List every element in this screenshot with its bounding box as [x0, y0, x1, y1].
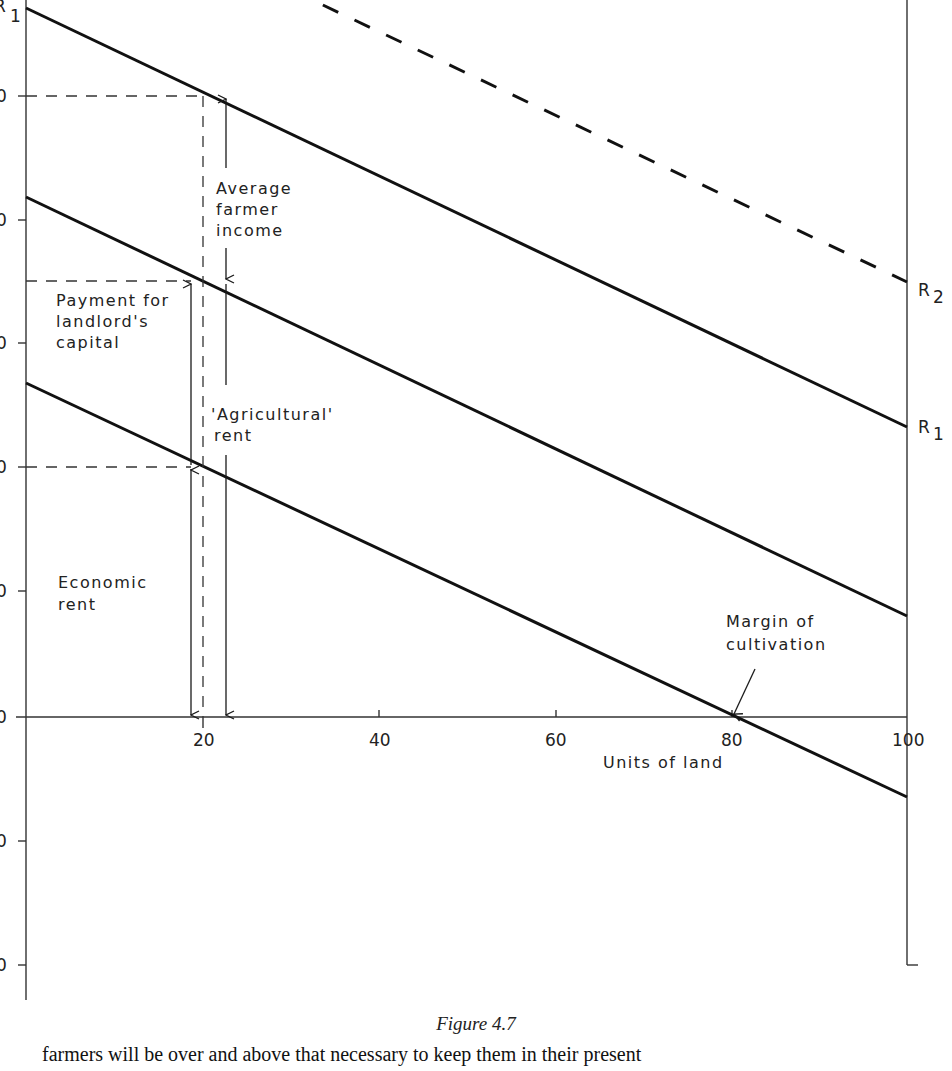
label-average-farmer-income: Average farmer income	[216, 179, 292, 240]
svg-text:Margin of: Margin of	[726, 612, 815, 631]
svg-text:landlord's: landlord's	[56, 312, 149, 331]
svg-text:60: 60	[545, 730, 567, 750]
line-economic-rent	[26, 383, 907, 797]
body-text: farmers will be over and above that nece…	[42, 1043, 641, 1066]
label-payment-landlord-capital: Payment for landlord's capital	[56, 291, 170, 352]
svg-text:0: 0	[0, 210, 7, 230]
y-tick-labels: 0 0 0 0 0 0 0 0	[0, 86, 7, 975]
svg-text:2: 2	[933, 287, 944, 307]
line-landlord-capital	[26, 197, 907, 616]
svg-text:0: 0	[0, 707, 7, 727]
svg-text:0: 0	[0, 581, 7, 601]
svg-text:Average: Average	[216, 179, 292, 198]
r1-left-label: R 1	[0, 0, 21, 26]
svg-text:0: 0	[0, 955, 7, 975]
label-agricultural-rent: 'Agricultural' rent	[211, 405, 334, 445]
svg-text:Payment for: Payment for	[56, 291, 170, 310]
figure-caption: Figure 4.7	[0, 1013, 952, 1035]
svg-text:capital: capital	[56, 333, 120, 352]
x-axis-title: Units of land	[603, 753, 724, 772]
svg-text:'Agricultural': 'Agricultural'	[211, 405, 334, 424]
svg-text:1: 1	[10, 6, 21, 26]
line-r2-dashed	[228, 0, 907, 282]
reference-dashes	[26, 96, 203, 717]
svg-text:0: 0	[0, 333, 7, 353]
svg-text:0: 0	[0, 831, 7, 851]
x-ticks	[203, 710, 732, 728]
svg-text:40: 40	[369, 730, 391, 750]
svg-text:80: 80	[721, 730, 743, 750]
svg-text:0: 0	[0, 457, 7, 477]
svg-text:1: 1	[933, 424, 944, 444]
svg-text:100: 100	[892, 730, 924, 750]
svg-text:cultivation: cultivation	[726, 635, 827, 654]
x-tick-labels: 20 40 60 80 100	[193, 730, 924, 750]
svg-text:Economic: Economic	[58, 573, 147, 592]
figure-4-7-chart: 0 0 0 0 0 0 0 0 20 40 60 80 100 Units of…	[0, 0, 952, 1000]
label-margin-of-cultivation: Margin of cultivation	[726, 612, 827, 654]
svg-text:R: R	[918, 280, 930, 300]
label-economic-rent: Economic rent	[58, 573, 147, 614]
r2-right-label: R 2	[918, 280, 944, 307]
svg-text:rent: rent	[214, 426, 252, 445]
svg-text:income: income	[216, 221, 284, 240]
svg-text:0: 0	[0, 86, 7, 106]
svg-text:rent: rent	[58, 595, 96, 614]
svg-text:R: R	[918, 417, 930, 437]
line-r1	[26, 8, 907, 427]
y-ticks	[18, 96, 26, 965]
svg-text:R: R	[0, 0, 6, 16]
svg-text:farmer: farmer	[216, 200, 279, 219]
svg-text:20: 20	[193, 730, 215, 750]
r1-right-label: R 1	[918, 417, 944, 444]
